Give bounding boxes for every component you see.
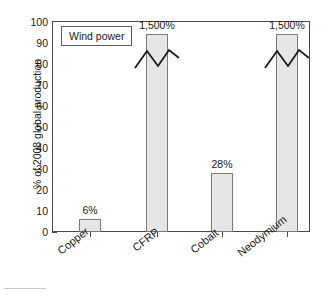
- plot-area: [52, 21, 310, 232]
- y-tick-label-100: 100: [8, 17, 48, 27]
- bar-label-cfrp: 1,500%: [139, 20, 175, 31]
- y-tick-label-20: 20: [8, 185, 48, 195]
- bar-label-copper: 6%: [82, 205, 97, 216]
- y-tick-label-10: 10: [8, 206, 48, 216]
- bar-label-cobalt: 28%: [211, 159, 232, 170]
- x-tick-mark-neodymium: [287, 232, 288, 237]
- bar-neodymium: [276, 34, 298, 232]
- y-tick-label-80: 80: [8, 59, 48, 69]
- y-tick-label-40: 40: [8, 143, 48, 153]
- bar-chart: % of 2008 global production 100 90 80 70…: [0, 0, 332, 299]
- y-tick-label-50: 50: [8, 122, 48, 132]
- legend-wind-power: Wind power: [61, 26, 132, 46]
- bar-cobalt: [211, 173, 233, 232]
- y-tick-label-90: 90: [8, 38, 48, 48]
- bar-cfrp: [146, 34, 168, 232]
- bar-label-neodymium: 1,500%: [269, 20, 305, 31]
- y-tick-label-30: 30: [8, 164, 48, 174]
- y-tick-label-0: 0: [8, 227, 48, 237]
- y-tick-label-70: 70: [8, 80, 48, 90]
- x-tick-mark-cobalt: [222, 232, 223, 237]
- y-tick-mark-0: [52, 232, 57, 233]
- scan-artifact-line: [4, 288, 46, 289]
- y-tick-label-60: 60: [8, 101, 48, 111]
